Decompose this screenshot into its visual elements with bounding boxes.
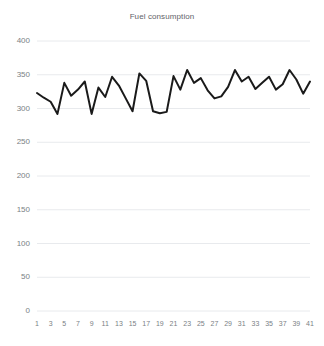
- y-axis-tick-label: 150: [2, 206, 30, 214]
- y-axis-tick-label: 400: [2, 37, 30, 45]
- x-axis-tick-label: 21: [170, 320, 178, 327]
- y-axis-tick-label: 350: [2, 71, 30, 79]
- x-axis-tick-label: 17: [142, 320, 150, 327]
- y-axis-tick-label: 0: [2, 307, 30, 315]
- x-axis-tick-label: 19: [156, 320, 164, 327]
- x-axis-tick-label: 27: [211, 320, 219, 327]
- x-axis-tick-label: 11: [102, 320, 109, 327]
- gridlines-group: [37, 41, 310, 311]
- y-axis-tick-label: 50: [2, 273, 30, 281]
- y-axis-tick-label: 250: [2, 138, 30, 146]
- x-axis-tick-label: 13: [115, 320, 123, 327]
- x-axis-tick-label: 41: [306, 320, 314, 327]
- x-axis-tick-label: 35: [265, 320, 273, 327]
- x-axis-tick-label: 1: [35, 320, 39, 327]
- chart-plot-area: [0, 0, 324, 346]
- x-axis-tick-label: 15: [129, 320, 137, 327]
- x-axis-tick-label: 31: [238, 320, 246, 327]
- x-axis-tick-label: 29: [224, 320, 232, 327]
- x-axis-tick-label: 9: [90, 320, 94, 327]
- x-axis-tick-label: 33: [251, 320, 259, 327]
- y-axis-tick-label: 200: [2, 172, 30, 180]
- chart-container: Fuel consumption 05010015020025030035040…: [0, 0, 324, 346]
- x-axis-tick-label: 25: [197, 320, 205, 327]
- y-axis-tick-label: 100: [2, 240, 30, 248]
- x-axis-tick-label: 23: [183, 320, 191, 327]
- y-axis-tick-label: 300: [2, 105, 30, 113]
- x-axis-tick-label: 39: [292, 320, 300, 327]
- x-axis-tick-label: 5: [62, 320, 66, 327]
- x-axis-tick-label: 7: [76, 320, 80, 327]
- data-line-series: [37, 70, 310, 114]
- x-axis-tick-label: 3: [49, 320, 53, 327]
- x-axis-tick-label: 37: [279, 320, 287, 327]
